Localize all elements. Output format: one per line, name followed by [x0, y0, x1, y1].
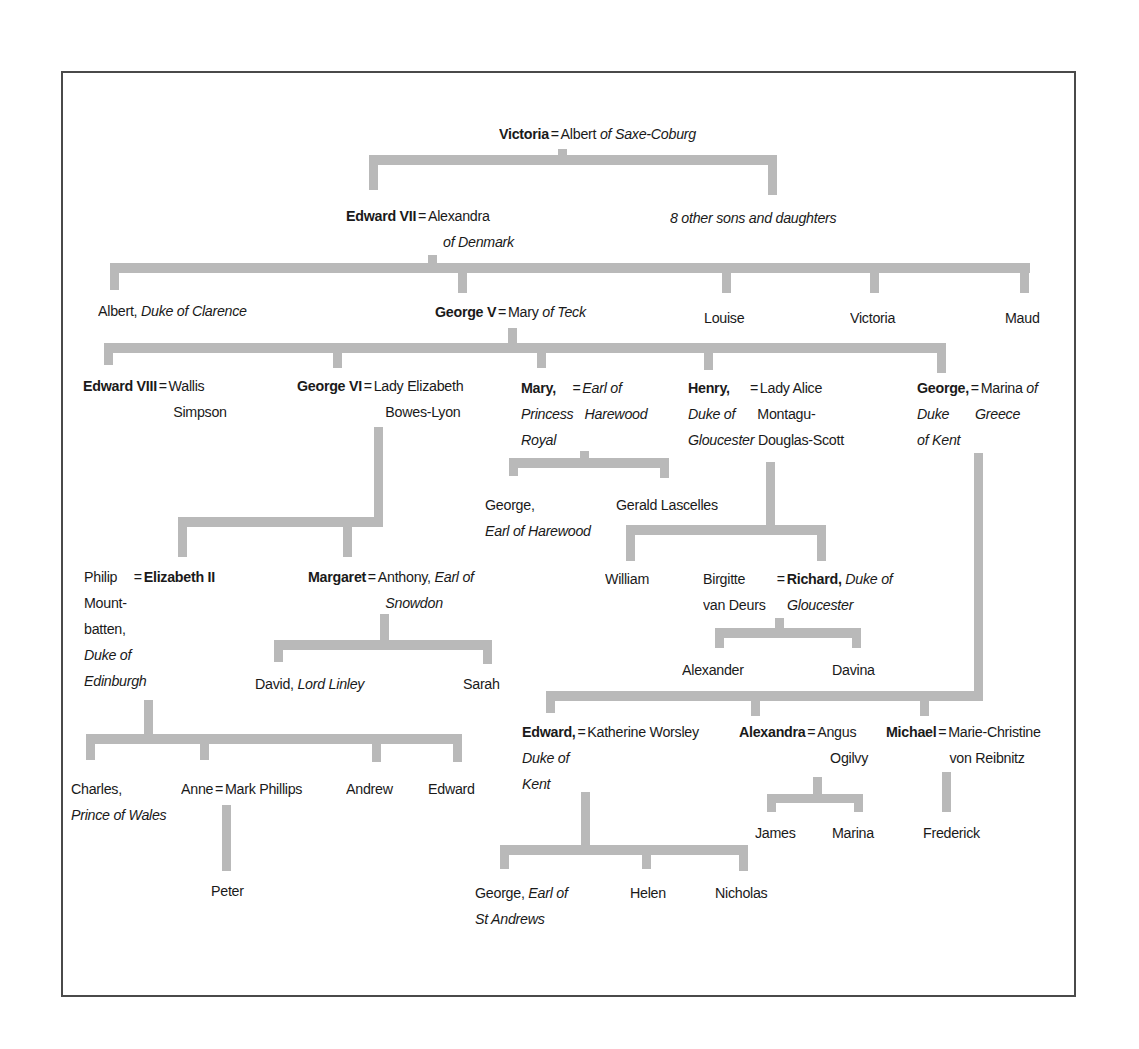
node-anne: Anne=Mark Phillips: [181, 776, 302, 802]
node-davina: Davina: [832, 657, 875, 683]
node-peter: Peter: [211, 878, 244, 904]
node-michael: Michael=Marie-Christine von Reibnitz: [886, 719, 1041, 771]
node-alexander: Alexander: [682, 657, 744, 683]
node-george-harewood: George, Earl of Harewood: [485, 492, 591, 544]
node-mary-princess-royal: Mary, =Earl of Princess Harewood Royal: [521, 375, 647, 453]
node-andrew: Andrew: [346, 776, 393, 802]
node-david-linley: David, Lord Linley: [255, 671, 364, 697]
node-birgitte: Birgitte van Deurs: [703, 566, 766, 618]
node-george-v: George V=Mary of Teck: [435, 299, 586, 325]
node-louise: Louise: [704, 305, 744, 331]
node-sarah: Sarah: [463, 671, 500, 697]
node-edward-vii: Edward VII=Alexandra: [346, 203, 490, 229]
node-marina: Marina: [832, 820, 874, 846]
node-charles: Charles, Prince of Wales: [71, 776, 166, 828]
node-maud: Maud: [1005, 305, 1040, 331]
node-george-st-andrews: George, Earl of St Andrews: [475, 880, 568, 932]
node-george-kent: George,=Marina of Duke Greece of Kent: [917, 375, 1038, 453]
node-helen: Helen: [630, 880, 666, 906]
node-richard-gloucester: =Richard, Duke of Gloucester: [775, 566, 893, 618]
node-other-children: 8 other sons and daughters: [670, 205, 836, 231]
name: Victoria: [499, 125, 549, 142]
node-alexandra-title: of Denmark: [443, 229, 514, 255]
node-william: William: [605, 566, 649, 592]
node-victoria-daughter: Victoria: [850, 305, 895, 331]
node-edward-kent: Edward,=Katherine Worsley Duke of Kent: [522, 719, 699, 797]
node-james: James: [755, 820, 796, 846]
node-albert-clarence: Albert, Duke of Clarence: [98, 298, 247, 324]
node-margaret: Margaret=Anthony, Earl of Snowdon: [308, 564, 474, 616]
node-gerald-lascelles: Gerald Lascelles: [616, 492, 718, 518]
node-edward: Edward: [428, 776, 475, 802]
node-henry-gloucester: Henry, =Lady Alice Duke of Montagu- Glou…: [688, 375, 844, 453]
node-victoria: Victoria=Albert of Saxe-Coburg: [499, 121, 696, 147]
node-elizabeth-ii: =Elizabeth II: [132, 564, 215, 590]
node-edward-viii: Edward VIII=Wallis Simpson: [83, 373, 227, 425]
node-alexandra: Alexandra=Angus Ogilvy: [739, 719, 868, 771]
node-george-vi: George VI=Lady Elizabeth Bowes-Lyon: [297, 373, 463, 425]
node-frederick: Frederick: [923, 820, 980, 846]
node-nicholas: Nicholas: [715, 880, 767, 906]
